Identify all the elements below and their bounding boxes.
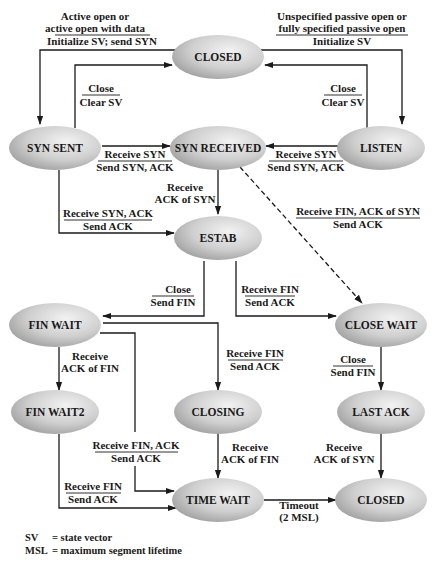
label-line: fully specified passive open xyxy=(279,22,406,34)
state-label: FIN WAIT xyxy=(28,319,81,331)
label-finwait-finwait2: Receive ACK of FIN xyxy=(61,350,119,374)
state-label: FIN WAIT2 xyxy=(26,406,85,418)
label-timewait-closed: Timeout (2 MSL) xyxy=(279,499,319,524)
label-passive-open: Unspecified passive open or fully specif… xyxy=(276,10,408,47)
legend-abbr-msl: MSL xyxy=(25,545,48,556)
label-estab-finwait: Close Send FIN xyxy=(151,283,196,308)
edge-finwait-timewait xyxy=(100,333,135,432)
label-line: Close xyxy=(330,82,356,94)
label-line: Send SYN, ACK xyxy=(267,161,345,173)
legend-def-msl: = maximum segment lifetime xyxy=(52,545,182,556)
label-line: Clear SV xyxy=(322,96,365,108)
label-line: Receive FIN xyxy=(226,347,284,359)
label-line: Clear SV xyxy=(80,96,123,108)
state-label: CLOSED xyxy=(357,494,404,506)
label-line: Receive FIN xyxy=(64,480,122,492)
label-line: Receive xyxy=(72,350,108,362)
label-line: Receive xyxy=(167,181,203,193)
state-label: CLOSE WAIT xyxy=(345,319,418,331)
label-line: Send FIN xyxy=(331,366,376,378)
state-last-ack: LAST ACK xyxy=(337,390,425,434)
state-syn-sent: SYN SENT xyxy=(9,126,101,170)
label-closewait-lastack: Close Send FIN xyxy=(331,353,376,378)
label-line: Receive FIN xyxy=(241,283,299,295)
state-fin-wait: FIN WAIT xyxy=(9,303,101,347)
state-listen: LISTEN xyxy=(337,126,425,170)
state-label: ESTAB xyxy=(200,232,237,244)
label-line: Send ACK xyxy=(245,296,295,308)
label-active-open: Active open or active open with data Ini… xyxy=(45,10,157,47)
label-line: Send FIN xyxy=(151,296,196,308)
label-line: ACK of SYN xyxy=(154,193,215,205)
state-estab: ESTAB xyxy=(174,216,262,260)
label-estab-closewait: Receive FIN Send ACK xyxy=(241,283,299,308)
label-line: Receive SYN, ACK xyxy=(63,207,154,219)
state-closed-top: CLOSED xyxy=(172,35,264,79)
label-line: Receive xyxy=(326,441,362,453)
state-label: LAST ACK xyxy=(352,406,410,418)
label-synsent-estab: Receive SYN, ACK Send ACK xyxy=(63,207,154,232)
label-line: Unspecified passive open or xyxy=(277,10,407,22)
label-line: ACK of SYN xyxy=(313,453,374,465)
label-synsent-close: Close Clear SV xyxy=(80,82,123,108)
legend: SV = state vector MSL = maximum segment … xyxy=(25,532,182,556)
state-label: TIME WAIT xyxy=(186,494,250,506)
state-label: CLOSING xyxy=(191,406,244,418)
label-line: ACK of FIN xyxy=(221,453,279,465)
state-fin-wait2: FIN WAIT2 xyxy=(11,390,99,434)
label-lastack-closed: Receive ACK of SYN xyxy=(313,441,374,465)
label-line: Receive FIN, ACK of SYN xyxy=(296,205,420,217)
state-closing: CLOSING xyxy=(174,390,262,434)
label-listen-close: Close Clear SV xyxy=(322,82,365,108)
label-line: Close xyxy=(165,283,191,295)
label-line: Close xyxy=(340,353,366,365)
state-closed-bottom: CLOSED xyxy=(335,478,427,522)
edge-finwait-timewait-2 xyxy=(135,466,174,491)
state-label: LISTEN xyxy=(360,142,403,154)
label-line: ACK of FIN xyxy=(61,362,119,374)
label-line: Send ACK xyxy=(68,493,118,505)
label-listen-synrcvd: Receive SYN Send SYN, ACK xyxy=(267,148,345,173)
label-finwait-timewait: Receive FIN, ACK Send ACK xyxy=(92,439,180,464)
label-line: Send ACK xyxy=(230,360,280,372)
label-finwait-closing: Receive FIN Send ACK xyxy=(226,347,284,372)
label-line: Receive FIN, ACK xyxy=(92,439,180,451)
label-line: Active open or xyxy=(61,10,130,22)
label-finwait2-timewait: Receive FIN Send ACK xyxy=(64,480,122,505)
state-close-wait: CLOSE WAIT xyxy=(335,303,427,347)
label-line: Timeout xyxy=(279,499,319,511)
tcp-state-diagram: CLOSED SYN SENT SYN RECEIVED LISTEN ESTA… xyxy=(0,0,438,563)
label-line: Receive SYN xyxy=(276,148,337,160)
label-line: Send ACK xyxy=(111,452,161,464)
label-line: active open with data xyxy=(45,22,145,34)
state-label: CLOSED xyxy=(194,51,241,63)
state-label: SYN SENT xyxy=(27,142,83,154)
state-time-wait: TIME WAIT xyxy=(172,478,264,522)
label-line: Initialize SV; send SYN xyxy=(47,35,157,47)
label-line: Initialize SV xyxy=(313,35,371,47)
label-synsent-synrcvd: Receive SYN Send SYN, ACK xyxy=(96,148,174,173)
label-line: (2 MSL) xyxy=(279,511,319,524)
label-line: Send ACK xyxy=(83,220,133,232)
label-line: Close xyxy=(88,82,114,94)
label-line: Send SYN, ACK xyxy=(96,161,174,173)
label-closing-timewait: Receive ACK of FIN xyxy=(221,441,279,465)
label-synrcvd-estab: Receive ACK of SYN xyxy=(154,181,215,205)
legend-def-sv: = state vector xyxy=(52,532,113,543)
label-line: Send ACK xyxy=(333,218,383,230)
state-label: SYN RECEIVED xyxy=(175,142,262,154)
label-line: Receive xyxy=(232,441,268,453)
legend-abbr-sv: SV xyxy=(25,532,39,543)
label-line: Receive SYN xyxy=(105,148,166,160)
label-synrcvd-closewait: Receive FIN, ACK of SYN Send ACK xyxy=(296,205,420,230)
state-syn-received: SYN RECEIVED xyxy=(170,126,266,170)
